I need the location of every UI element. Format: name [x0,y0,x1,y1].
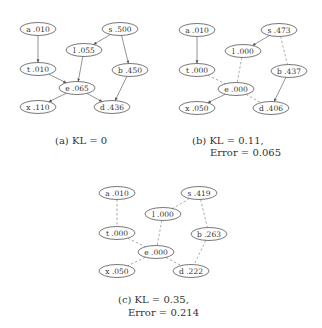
node-label: x .050 [105,267,129,276]
edge-t-e [208,75,226,84]
node-label: l .055 [73,46,95,55]
edge-b-d [194,240,206,264]
node-l: l .000 [225,45,261,58]
node-s: s .500 [102,23,138,36]
edge-e-x [208,94,226,103]
node-d: d .436 [94,101,130,114]
edge-e-d [166,257,181,265]
node-label: a .010 [26,25,50,34]
node-label: l .000 [152,210,174,219]
edge-s-b [281,36,288,64]
node-label: e .000 [144,248,168,257]
edge-t-e [49,74,67,83]
edge-s-b [122,35,129,63]
node-label: s .419 [188,189,211,198]
node-label: t .000 [106,229,128,238]
edge-b-d [274,77,286,101]
node-label: d .436 [100,103,124,112]
node-label: b .450 [118,66,142,75]
edge-l-e [237,57,242,82]
panel-a: a .010s .500l .055t .010b .450e .065x .1… [20,23,148,147]
node-a: a .010 [179,24,215,37]
edge-l-e [78,56,83,81]
node-l: l .055 [66,44,102,57]
caption-line: Error = 0.214 [128,307,199,318]
node-label: s .500 [109,25,132,34]
node-label: x .050 [185,104,209,113]
node-e: e .000 [138,246,174,259]
node-label: a .010 [105,189,129,198]
node-s: s .419 [181,187,217,200]
node-a: a .010 [20,23,56,36]
node-label: e .000 [224,85,248,94]
node-t: t .000 [99,227,135,240]
edge-t-e [128,238,146,247]
node-s: s .473 [261,24,297,37]
node-b: b .437 [271,65,307,78]
node-x: x .050 [179,102,215,115]
node-b: b .450 [112,64,148,77]
node-x: x .110 [20,101,56,114]
node-d: d .222 [173,265,209,278]
bayesian-network-figure: a .010s .500l .055t .010b .450e .065x .1… [0,0,322,328]
caption-line: (c) KL = 0.35, [118,294,189,305]
edge-e-x [49,93,67,102]
edge-s-l [93,35,110,45]
caption-line: (b) KL = 0.11, [192,135,264,146]
node-l: l .000 [145,208,181,221]
node-label: b .437 [277,67,301,76]
node-label: t .010 [27,65,49,74]
node-t: t .000 [179,64,215,77]
edge-b-d [115,76,127,100]
node-label: l .000 [232,47,254,56]
node-e: e .000 [218,83,254,96]
node-label: b .263 [197,230,221,239]
node-t: t .010 [20,63,56,76]
node-label: a .010 [185,26,209,35]
node-x: x .050 [99,265,135,278]
edge-l-e [157,220,162,245]
edge-s-l [252,36,269,46]
node-b: b .263 [191,228,227,241]
edge-e-d [87,93,102,101]
node-a: a .010 [99,187,135,200]
panel-b: a .010s .473l .000t .000b .437e .000x .0… [179,24,307,159]
edge-e-x [128,257,146,266]
node-label: e .065 [65,84,89,93]
node-label: d .222 [179,267,203,276]
caption-line: (a) KL = 0 [55,135,107,146]
caption-line: Error = 0.065 [210,147,281,158]
edge-s-b [201,199,208,227]
node-e: e .065 [59,82,95,95]
node-label: d .406 [259,104,283,113]
edge-e-d [246,94,261,102]
node-label: s .473 [268,26,291,35]
edge-s-l [172,199,189,209]
panel-c: a .010s .419l .000t .000b .263e .000x .0… [99,187,227,319]
node-label: x .110 [26,103,50,112]
node-label: t .000 [186,66,208,75]
node-d: d .406 [253,102,289,115]
